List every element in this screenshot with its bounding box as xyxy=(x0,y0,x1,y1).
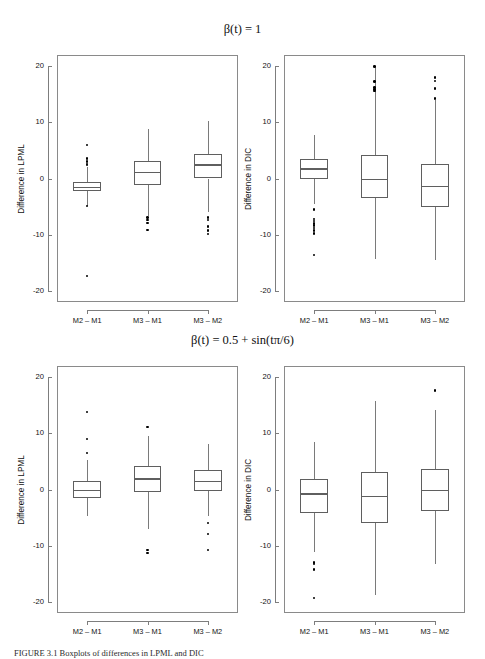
panel-bottom-right: 20100-10-20Difference in DICM2 – M1M3 – … xyxy=(0,0,485,659)
figure-boxplot-grid: β(t) = 1 20100-10-20Difference in LPMLM2… xyxy=(0,0,485,659)
y-tick-label: 10 xyxy=(249,428,271,437)
x-tick-label: M3 – M1 xyxy=(345,627,405,636)
y-axis-label: Difference in DIC xyxy=(244,458,253,520)
box-body xyxy=(361,472,389,523)
y-tick-mark xyxy=(275,546,279,547)
whisker-lower xyxy=(314,513,315,553)
x-tick-mark xyxy=(314,621,315,625)
median-line xyxy=(361,496,389,497)
whisker-lower xyxy=(435,511,436,564)
whisker-upper xyxy=(314,442,315,479)
figure-caption: FIGURE 3.1 Boxplots of differences in LP… xyxy=(14,648,474,659)
x-tick-label: M3 – M2 xyxy=(405,627,465,636)
box-body xyxy=(300,479,328,512)
y-tick-label: -10 xyxy=(249,541,271,550)
x-tick-mark xyxy=(435,621,436,625)
x-tick-mark xyxy=(375,621,376,625)
outlier-point xyxy=(434,389,437,392)
y-tick-label: -20 xyxy=(249,597,271,606)
median-line xyxy=(421,490,449,491)
whisker-upper xyxy=(375,401,376,472)
y-tick-mark xyxy=(275,490,279,491)
y-tick-label: 20 xyxy=(249,372,271,381)
median-line xyxy=(300,493,328,494)
x-tick-label: M2 – M1 xyxy=(284,627,344,636)
y-tick-mark xyxy=(275,377,279,378)
whisker-upper xyxy=(435,410,436,469)
y-tick-mark xyxy=(275,602,279,603)
whisker-lower xyxy=(375,523,376,595)
y-tick-mark xyxy=(275,433,279,434)
